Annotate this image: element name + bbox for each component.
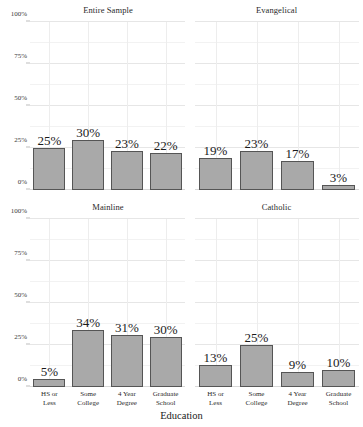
bar <box>72 330 104 387</box>
y-axis-tick-mark <box>26 189 30 190</box>
plot-area: 0%25%50%75%100%5%34%31%30% <box>30 219 185 387</box>
gridline-horizontal-minor <box>30 281 185 282</box>
facet-title: Evangelical <box>190 5 363 15</box>
x-axis-tick-label: GraduateSchool <box>326 390 352 408</box>
gridline-horizontal-minor <box>195 84 359 85</box>
facet-panel-evangelical: Evangelical19%23%17%3% <box>190 0 363 214</box>
y-axis-tick-mark <box>26 386 30 387</box>
x-axis-tick-label-line: Less <box>41 399 58 408</box>
bar <box>240 151 274 190</box>
bar-value-label: 19% <box>204 144 228 157</box>
y-axis-tick-mark <box>26 344 30 345</box>
bar-value-label: 5% <box>41 365 58 378</box>
bar <box>111 335 143 387</box>
bar <box>33 379 65 387</box>
x-axis-tick-label-line: College <box>77 399 99 408</box>
gridline-horizontal-minor <box>195 281 359 282</box>
x-axis-tick-label: HS orLess <box>41 390 58 408</box>
bar <box>240 345 274 387</box>
gridline-horizontal-minor <box>30 42 185 43</box>
x-axis-tick-label: SomeCollege <box>246 390 268 408</box>
gridline-horizontal-minor <box>30 84 185 85</box>
bar-value-label: 3% <box>330 171 347 184</box>
x-axis-tick-label: 4 YearDegree <box>117 390 137 408</box>
gridline-horizontal-major <box>30 63 185 64</box>
x-axis-tick-label: GraduateSchool <box>153 390 179 408</box>
x-axis-tick-label-line: Some <box>246 390 268 399</box>
bar-chart-figure: Entire Sample0%25%50%75%100%25%30%23%22%… <box>0 0 363 427</box>
gridline-horizontal-major <box>30 260 185 261</box>
bar-value-label: 31% <box>115 321 139 334</box>
y-axis-tick-label: 75% <box>14 52 27 60</box>
bar-value-label: 34% <box>76 316 100 329</box>
facet-title: Catholic <box>190 202 363 212</box>
bar <box>33 148 65 190</box>
y-axis-tick-label: 75% <box>14 249 27 257</box>
gridline-horizontal-major <box>30 218 185 219</box>
bar <box>199 158 233 190</box>
y-axis-tick-mark <box>26 147 30 148</box>
x-axis-title: Education <box>0 410 363 421</box>
y-axis-tick-label: 100% <box>11 10 27 18</box>
gridline-vertical <box>339 22 340 190</box>
y-axis-tick-label: 100% <box>11 207 27 215</box>
gridline-horizontal-minor <box>195 239 359 240</box>
x-axis-tick-label: SomeCollege <box>77 390 99 408</box>
gridline-horizontal-major <box>30 302 185 303</box>
gridline-horizontal-minor <box>30 126 185 127</box>
gridline-horizontal-minor <box>30 239 185 240</box>
y-axis-tick-label: 50% <box>14 94 27 102</box>
y-axis-tick-label: 50% <box>14 291 27 299</box>
bar-value-label: 25% <box>245 331 269 344</box>
gridline-horizontal-minor <box>195 323 359 324</box>
facet-row-top: Entire Sample0%25%50%75%100%25%30%23%22%… <box>0 0 363 214</box>
bar-value-label: 23% <box>245 137 269 150</box>
bar <box>322 370 356 387</box>
x-axis-tick-label-line: Degree <box>117 399 137 408</box>
y-axis-tick-label: 0% <box>18 375 27 383</box>
bar <box>150 337 182 387</box>
bar <box>322 185 356 190</box>
y-axis-tick-mark <box>26 260 30 261</box>
x-axis-tick-label: HS orLess <box>207 390 224 408</box>
gridline-horizontal-major <box>30 21 185 22</box>
x-axis-tick-label: 4 YearDegree <box>287 390 307 408</box>
x-axis-tick-label-line: HS or <box>207 390 224 399</box>
bar-value-label: 25% <box>37 134 61 147</box>
gridline-horizontal-major <box>195 105 359 106</box>
x-axis-tick-label-line: Less <box>207 399 224 408</box>
x-axis-tick-label-line: College <box>246 399 268 408</box>
x-axis-tick-label-line: Some <box>77 390 99 399</box>
y-axis-tick-mark <box>26 21 30 22</box>
x-axis-tick-label-line: School <box>153 399 179 408</box>
plot-area: 13%25%9%10% <box>195 219 359 387</box>
x-axis-tick-label-line: Graduate <box>153 390 179 399</box>
y-axis-tick-mark <box>26 302 30 303</box>
gridline-horizontal-minor <box>195 42 359 43</box>
bar <box>281 161 315 190</box>
bar-value-label: 22% <box>154 139 178 152</box>
gridline-horizontal-major <box>195 260 359 261</box>
y-axis-tick-mark <box>26 63 30 64</box>
facet-title: Entire Sample <box>0 5 190 15</box>
y-axis-tick-mark <box>26 218 30 219</box>
y-axis-tick-label: 0% <box>18 178 27 186</box>
bar <box>111 151 143 190</box>
x-axis-tick-label-line: Graduate <box>326 390 352 399</box>
facet-panel-entire-sample: Entire Sample0%25%50%75%100%25%30%23%22% <box>0 0 190 214</box>
bar-value-label: 30% <box>154 323 178 336</box>
x-axis-tick-label-line: HS or <box>41 390 58 399</box>
bar-value-label: 10% <box>327 356 351 369</box>
gridline-horizontal-major <box>195 63 359 64</box>
gridline-horizontal-major <box>30 105 185 106</box>
x-axis-tick-label-line: 4 Year <box>117 390 137 399</box>
plot-area: 19%23%17%3% <box>195 22 359 190</box>
x-axis-tick-label-line: School <box>326 399 352 408</box>
bar <box>199 365 233 387</box>
bar-value-label: 13% <box>204 351 228 364</box>
y-axis-tick-mark <box>26 105 30 106</box>
gridline-horizontal-major <box>195 302 359 303</box>
bar <box>72 140 104 190</box>
x-axis-tick-label-line: Degree <box>287 399 307 408</box>
x-axis-tick-label-line: 4 Year <box>287 390 307 399</box>
